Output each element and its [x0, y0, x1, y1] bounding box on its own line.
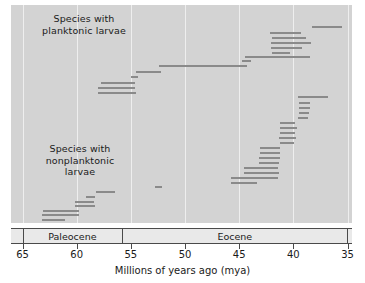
range-bar — [270, 32, 301, 34]
range-bar — [231, 177, 279, 179]
x-axis: 65605550454035 — [11, 244, 352, 266]
range-bar — [299, 102, 310, 104]
range-bar — [231, 182, 257, 184]
range-bar — [280, 142, 294, 144]
x-tick-label-65: 65 — [16, 249, 29, 260]
range-bar — [75, 205, 96, 207]
x-tick-label-55: 55 — [124, 249, 137, 260]
range-bar — [272, 37, 307, 39]
range-bar — [280, 122, 295, 124]
range-bar — [75, 201, 95, 203]
gridline-45 — [239, 5, 240, 223]
range-bar — [271, 47, 302, 49]
range-bar — [98, 92, 136, 94]
range-bar — [245, 56, 310, 58]
epoch-divider — [23, 229, 24, 243]
x-tick-label-60: 60 — [70, 249, 83, 260]
range-bar — [260, 152, 281, 154]
range-bar — [136, 71, 161, 73]
gridline-60 — [77, 5, 78, 223]
range-bar — [242, 60, 251, 62]
range-bar — [43, 210, 79, 212]
gridline-35 — [348, 5, 349, 223]
range-bar — [259, 157, 281, 159]
range-bar — [42, 214, 79, 216]
x-tick-label-40: 40 — [287, 249, 300, 260]
x-tick-label-35: 35 — [341, 249, 354, 260]
group-label-planktonic: Species with planktonic larvae — [29, 13, 139, 36]
range-bar — [131, 76, 139, 78]
range-bar — [159, 65, 247, 67]
epoch-label: Paleocene — [48, 231, 96, 242]
chart-figure: Species with planktonic larvae Species w… — [0, 0, 365, 283]
epoch-paleocene: Paleocene — [23, 229, 123, 243]
x-tick-label-50: 50 — [179, 249, 192, 260]
range-bar — [86, 196, 95, 198]
gridline-50 — [185, 5, 186, 223]
gridline-55 — [131, 5, 132, 223]
range-bar — [259, 162, 280, 164]
range-bar — [244, 172, 280, 174]
range-bar — [280, 132, 295, 134]
range-bar — [260, 147, 281, 149]
epoch-divider-end — [347, 229, 348, 243]
epoch-label: Eocene — [217, 231, 252, 242]
range-bar — [298, 96, 328, 98]
range-bar — [272, 52, 290, 54]
range-bar — [299, 112, 309, 114]
epoch-eocene: Eocene — [122, 229, 347, 243]
range-bar — [279, 137, 295, 139]
range-bar — [96, 191, 114, 193]
epoch-band: PaleoceneEocene — [11, 228, 352, 244]
range-bar — [101, 82, 136, 84]
range-bar — [298, 117, 309, 119]
range-bar — [42, 219, 65, 221]
range-bar — [155, 186, 163, 188]
range-bar — [271, 42, 311, 44]
range-bar — [244, 167, 279, 169]
range-bar — [98, 87, 135, 89]
range-bar — [299, 107, 310, 109]
range-bar — [280, 127, 296, 129]
x-axis-title: Millions of years ago (mya) — [0, 265, 365, 276]
group-label-nonplanktonic: Species with nonplanktonic larvae — [25, 143, 135, 178]
range-bar — [312, 26, 342, 28]
epoch-divider — [122, 229, 123, 243]
gridline-65 — [23, 5, 24, 223]
x-tick-label-45: 45 — [233, 249, 246, 260]
plot-area: Species with planktonic larvae Species w… — [11, 5, 352, 223]
